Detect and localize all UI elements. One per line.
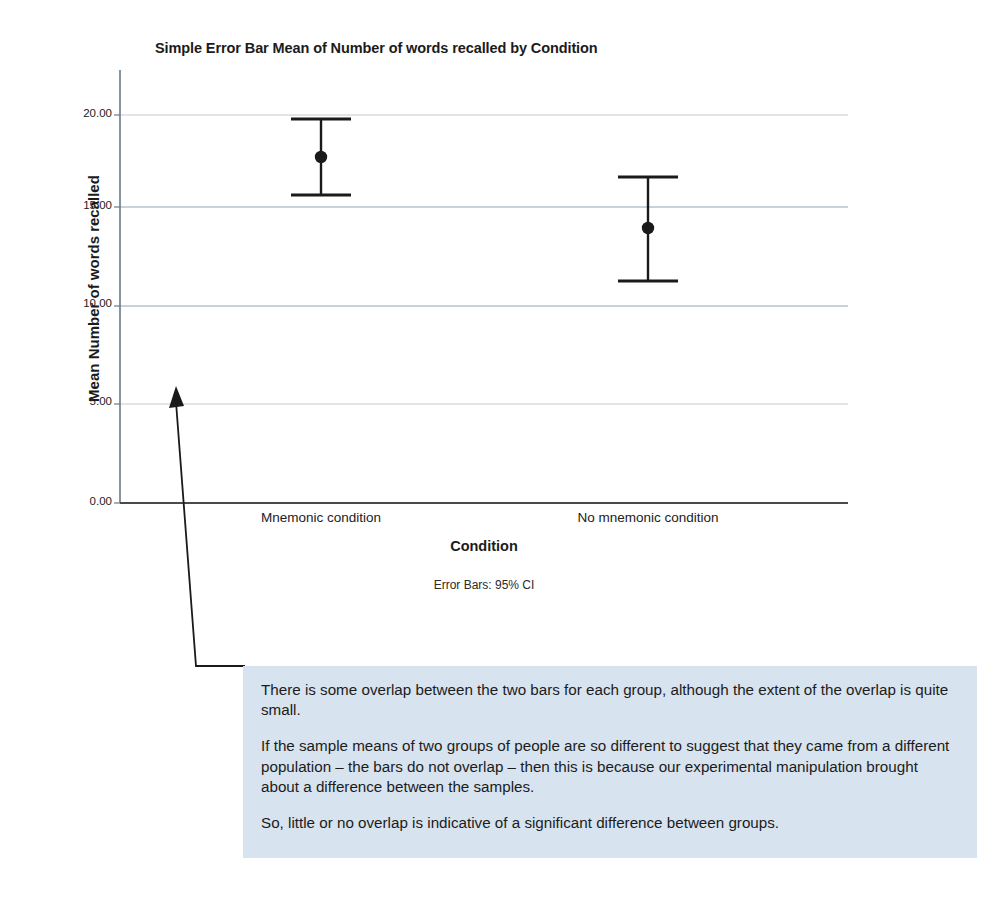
y-tick-marks [114,115,120,503]
callout-paragraph-3: So, little or no overlap is indicative o… [261,813,959,833]
callout-paragraph-2: If the sample means of two groups of peo… [261,736,959,797]
callout-paragraph-1: There is some overlap between the two ba… [261,680,959,720]
error-bar-mnemonic-condition [291,119,351,195]
gridlines [120,115,848,404]
arrow-head [169,386,184,408]
error-bar-no-mnemonic-condition [618,177,678,281]
mean-marker [315,151,327,163]
mean-marker [642,222,654,234]
callout-box: There is some overlap between the two ba… [243,666,977,858]
error-bar-figure: Simple Error Bar Mean of Number of words… [0,0,1006,910]
callout-arrow [169,386,245,666]
